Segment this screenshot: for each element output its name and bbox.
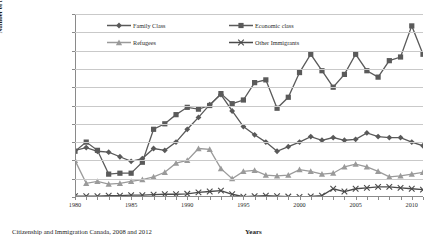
x-axis-tick bbox=[277, 197, 278, 200]
x-axis-tick bbox=[120, 197, 121, 200]
x-axis-tick bbox=[389, 197, 390, 200]
y-axis-tick bbox=[72, 87, 75, 88]
x-axis-tick-label: 2005 bbox=[349, 201, 361, 208]
y-axis-tick bbox=[72, 106, 75, 107]
legend-label: Family Class bbox=[133, 22, 166, 29]
source-note: Citizenship and Immigration Canada, 2008… bbox=[12, 228, 152, 235]
legend-swatch-diamond-icon bbox=[107, 21, 131, 30]
x-axis-tick bbox=[378, 197, 379, 200]
x-axis-tick-label: 1985 bbox=[125, 201, 137, 208]
x-axis-tick bbox=[401, 197, 402, 200]
legend-swatch-triangle-icon bbox=[107, 38, 131, 47]
legend-label: Economic class bbox=[255, 22, 294, 29]
y-axis-tick bbox=[72, 142, 75, 143]
x-axis-tick bbox=[243, 197, 244, 200]
gridline bbox=[75, 160, 423, 161]
legend-item-other-immigrants[interactable]: Other Immigrants bbox=[229, 38, 331, 47]
x-axis-tick-label: 1980 bbox=[69, 201, 81, 208]
y-axis-title: Number of immigrants bbox=[0, 0, 3, 62]
y-axis-tick bbox=[72, 14, 75, 15]
x-axis-tick-label: 2000 bbox=[293, 201, 305, 208]
chart-legend: Family Class Economic class Refugees Oth… bbox=[107, 17, 331, 51]
x-axis-tick bbox=[131, 197, 132, 200]
x-axis-tick bbox=[356, 197, 357, 200]
x-axis-tick bbox=[423, 197, 424, 200]
x-axis-tick bbox=[221, 197, 222, 200]
legend-item-refugees[interactable]: Refugees bbox=[107, 38, 229, 47]
legend-item-economic-class[interactable]: Economic class bbox=[229, 21, 331, 30]
x-axis-tick bbox=[154, 197, 155, 200]
x-axis-tick bbox=[412, 197, 413, 200]
x-axis-tick bbox=[344, 197, 345, 200]
x-axis-tick bbox=[142, 197, 143, 200]
x-axis-tick-label: 1990 bbox=[181, 201, 193, 208]
x-axis-tick bbox=[165, 197, 166, 200]
x-axis-tick bbox=[97, 197, 98, 200]
x-axis-tick bbox=[311, 197, 312, 200]
y-axis-tick bbox=[72, 69, 75, 70]
x-axis-title: Years bbox=[245, 228, 262, 236]
x-axis-tick bbox=[288, 197, 289, 200]
legend-label: Other Immigrants bbox=[255, 39, 299, 46]
x-axis-tick bbox=[266, 197, 267, 200]
x-axis-tick bbox=[367, 197, 368, 200]
legend-label: Refugees bbox=[133, 39, 156, 46]
x-axis-tick bbox=[300, 197, 301, 200]
x-axis-tick bbox=[109, 197, 110, 200]
gridline bbox=[75, 142, 423, 143]
gridline bbox=[75, 14, 423, 15]
immigration-line-chart-figure: Number of immigrants 0200004000060000800… bbox=[0, 0, 435, 247]
gridline bbox=[75, 87, 423, 88]
x-axis-tick bbox=[255, 197, 256, 200]
y-axis-tick bbox=[72, 160, 75, 161]
x-axis-tick bbox=[210, 197, 211, 200]
y-axis-tick bbox=[72, 124, 75, 125]
x-axis-tick bbox=[187, 197, 188, 200]
gridline bbox=[75, 124, 423, 125]
y-axis-tick bbox=[72, 51, 75, 52]
y-axis-tick bbox=[72, 32, 75, 33]
gridline bbox=[75, 179, 423, 180]
x-axis-tick bbox=[333, 197, 334, 200]
x-axis-tick-label: 2010 bbox=[406, 201, 418, 208]
x-axis-tick bbox=[176, 197, 177, 200]
x-axis-tick-label: 1995 bbox=[237, 201, 249, 208]
x-axis-tick bbox=[86, 197, 87, 200]
x-axis-tick bbox=[75, 197, 76, 200]
legend-swatch-x-icon bbox=[229, 38, 253, 47]
legend-swatch-square-icon bbox=[229, 21, 253, 30]
x-axis-tick bbox=[232, 197, 233, 200]
gridline bbox=[75, 69, 423, 70]
y-axis-tick bbox=[72, 179, 75, 180]
x-axis-tick bbox=[322, 197, 323, 200]
plot-area: 0200004000060000800001000001200001400001… bbox=[75, 14, 423, 197]
gridline bbox=[75, 106, 423, 107]
x-axis-tick bbox=[198, 197, 199, 200]
legend-item-family-class[interactable]: Family Class bbox=[107, 21, 229, 30]
